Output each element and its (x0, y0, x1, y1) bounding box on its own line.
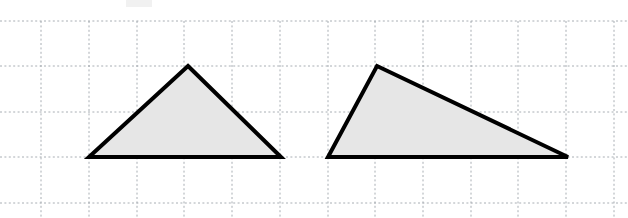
figure-background (0, 0, 628, 218)
figure-canvas (0, 0, 628, 218)
geometry-figure-svg (0, 0, 628, 218)
paper-smudge (126, 0, 152, 7)
